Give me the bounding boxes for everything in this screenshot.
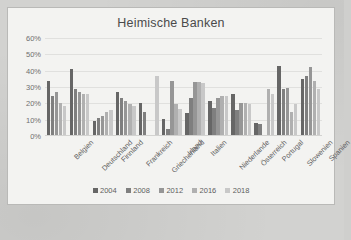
bar-group xyxy=(299,38,322,136)
legend-label: 2012 xyxy=(166,186,183,195)
bar-group xyxy=(253,38,276,136)
bar xyxy=(120,98,123,136)
bar xyxy=(313,81,316,136)
y-axis-tick-label: 0% xyxy=(30,132,41,141)
legend-label: 2018 xyxy=(233,186,250,195)
bar xyxy=(86,94,89,136)
bar xyxy=(305,76,308,136)
bar xyxy=(63,106,66,136)
bar-groups xyxy=(45,38,322,136)
bar xyxy=(231,94,234,136)
bar xyxy=(109,110,112,136)
bar xyxy=(309,67,312,136)
bar xyxy=(170,81,173,136)
bar xyxy=(282,89,285,136)
bar-group xyxy=(207,38,230,136)
bar xyxy=(143,112,146,136)
legend-label: 2016 xyxy=(200,186,217,195)
bar xyxy=(128,104,131,136)
chart-legend: 20042008201220162018 xyxy=(8,186,334,195)
y-axis-tick-label: 60% xyxy=(26,34,41,43)
bar xyxy=(105,112,108,136)
bar-group xyxy=(276,38,299,136)
bar-group xyxy=(45,38,68,136)
bar xyxy=(208,101,211,136)
bar xyxy=(47,81,50,136)
bar xyxy=(286,88,289,136)
bar xyxy=(174,104,177,136)
bar xyxy=(178,109,181,136)
bar xyxy=(220,96,223,136)
bar xyxy=(78,92,81,136)
bar xyxy=(235,110,238,136)
bar xyxy=(271,94,274,136)
bar xyxy=(155,76,158,136)
bar xyxy=(189,98,192,136)
bar xyxy=(317,89,320,136)
bar xyxy=(124,101,127,136)
bar xyxy=(197,82,200,136)
bar-group xyxy=(91,38,114,136)
bar xyxy=(51,96,54,136)
bar-group xyxy=(68,38,91,136)
bar xyxy=(97,118,100,136)
bar xyxy=(59,103,62,136)
bar-group xyxy=(137,38,160,136)
bar xyxy=(139,103,142,136)
category-label: Italien xyxy=(209,138,229,158)
y-axis-tick-label: 10% xyxy=(26,115,41,124)
bar xyxy=(225,96,228,136)
y-axis-tick-label: 20% xyxy=(26,99,41,108)
bar xyxy=(132,106,135,136)
bar xyxy=(212,108,215,136)
legend-swatch xyxy=(126,188,131,193)
bar-group xyxy=(183,38,206,136)
legend-swatch xyxy=(192,188,197,193)
bar xyxy=(294,104,297,136)
legend-item[interactable]: 2008 xyxy=(126,186,150,195)
category-label: Frankreich xyxy=(144,138,174,168)
bar xyxy=(244,103,247,136)
bar xyxy=(93,121,96,136)
bar xyxy=(162,119,165,136)
bar xyxy=(70,69,73,136)
bar-group xyxy=(114,38,137,136)
x-axis-line xyxy=(45,135,322,136)
bar xyxy=(267,89,270,136)
bar xyxy=(101,116,104,136)
legend-item[interactable]: 2016 xyxy=(192,186,216,195)
y-axis-tick-label: 30% xyxy=(26,83,41,92)
bar xyxy=(290,112,293,137)
bar xyxy=(82,94,85,136)
legend-label: 2008 xyxy=(133,186,150,195)
y-axis-tick-label: 50% xyxy=(26,50,41,59)
category-labels: BelgienDeutschlandFinnlandFrankreichGrie… xyxy=(45,138,322,184)
plot-area: 0%10%20%30%40%50%60% xyxy=(45,38,322,136)
bar xyxy=(201,83,204,136)
bar xyxy=(248,104,251,136)
chart-title: Heimische Banken xyxy=(8,16,334,30)
legend-item[interactable]: 2004 xyxy=(93,186,117,195)
bar-group xyxy=(160,38,183,136)
legend-swatch xyxy=(159,188,164,193)
legend-item[interactable]: 2018 xyxy=(225,186,249,195)
legend-item[interactable]: 2012 xyxy=(159,186,183,195)
bar xyxy=(239,103,242,136)
bar xyxy=(216,98,219,136)
bar xyxy=(277,66,280,136)
chart-card: Heimische Banken 0%10%20%30%40%50%60% Be… xyxy=(7,7,335,205)
legend-label: 2004 xyxy=(100,186,117,195)
bar xyxy=(193,82,196,136)
bar xyxy=(116,92,119,136)
bar xyxy=(301,79,304,136)
bar xyxy=(55,92,58,136)
legend-swatch xyxy=(225,188,230,193)
category-label: Belgien xyxy=(72,138,95,161)
legend-swatch xyxy=(93,188,98,193)
bar xyxy=(185,113,188,136)
y-axis-tick-label: 40% xyxy=(26,66,41,75)
bar xyxy=(74,89,77,136)
bar-group xyxy=(230,38,253,136)
